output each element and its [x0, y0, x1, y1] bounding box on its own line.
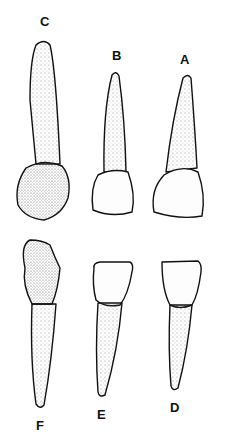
- tooth-a: [153, 76, 203, 218]
- label-f: F: [36, 418, 44, 433]
- tooth-f: [23, 240, 60, 407]
- label-d: D: [170, 400, 179, 415]
- tooth-c: [17, 42, 69, 221]
- label-c: C: [40, 14, 49, 29]
- label-a: A: [180, 52, 189, 67]
- label-e: E: [97, 407, 106, 422]
- label-b: B: [112, 48, 121, 63]
- tooth-d: [162, 261, 201, 390]
- tooth-b: [92, 73, 133, 215]
- tooth-e: [93, 262, 132, 396]
- teeth-drawing: [0, 0, 232, 446]
